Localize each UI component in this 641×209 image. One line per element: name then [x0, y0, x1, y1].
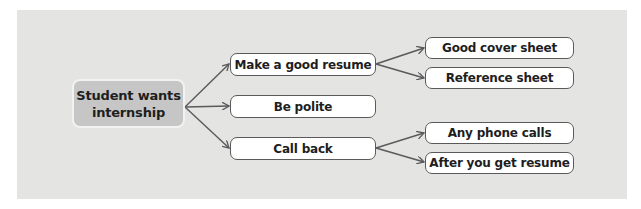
node-make-good-resume: Make a good resume	[230, 53, 376, 76]
node-call-back: Call back	[230, 137, 376, 160]
node-after-you-get-resume: After you get resume	[425, 152, 574, 174]
node-reference-sheet: Reference sheet	[425, 67, 574, 89]
node-good-cover-sheet: Good cover sheet	[425, 37, 574, 59]
arrow-root-to-polite	[185, 106, 229, 107]
node-be-polite: Be polite	[230, 95, 376, 118]
arrow-root-to-callback	[185, 107, 229, 148]
node-any-phone-calls: Any phone calls	[425, 122, 574, 144]
arrow-callback-to-phone	[376, 133, 424, 148]
root-label-line1: Student wants	[76, 87, 180, 104]
arrow-callback-to-after	[376, 148, 424, 162]
arrow-root-to-resume	[185, 64, 229, 107]
root-label-line2: internship	[76, 104, 180, 121]
root-node: Student wants internship	[72, 79, 185, 128]
arrow-resume-to-reference	[376, 64, 424, 78]
arrow-resume-to-cover	[376, 48, 424, 64]
